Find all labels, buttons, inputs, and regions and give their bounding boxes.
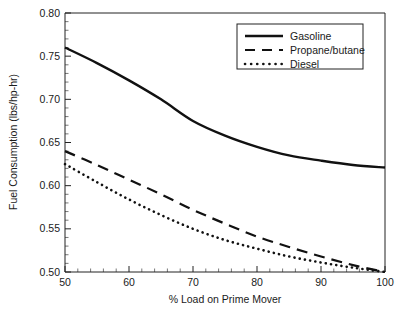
y-tick-label: 0.60 bbox=[40, 179, 61, 191]
series-line-propane-butane bbox=[65, 151, 385, 272]
chart-figure: 0.500.550.600.650.700.750.80506070809010… bbox=[0, 0, 409, 315]
legend-label-propane-butane: Propane/butane bbox=[290, 44, 365, 56]
y-axis-title: Fuel Consumption (lbs/hp-hr) bbox=[7, 74, 19, 210]
series-line-diesel bbox=[65, 164, 385, 272]
legend-label-diesel: Diesel bbox=[290, 58, 319, 70]
data-series-group bbox=[65, 48, 385, 272]
y-tick-label: 0.50 bbox=[40, 266, 61, 278]
x-tick-label: 60 bbox=[123, 276, 135, 288]
x-tick-label: 70 bbox=[187, 276, 199, 288]
y-tick-label: 0.70 bbox=[40, 93, 61, 105]
y-tick-label: 0.80 bbox=[40, 7, 61, 19]
x-tick-label: 100 bbox=[376, 276, 394, 288]
y-tick-label: 0.55 bbox=[40, 222, 61, 234]
x-tick-label: 80 bbox=[251, 276, 263, 288]
x-axis-title: % Load on Prime Mover bbox=[169, 293, 282, 305]
x-tick-label: 50 bbox=[59, 276, 71, 288]
fuel-consumption-line-chart: 0.500.550.600.650.700.750.80506070809010… bbox=[0, 0, 409, 315]
y-tick-label: 0.65 bbox=[40, 136, 61, 148]
x-tick-label: 90 bbox=[315, 276, 327, 288]
y-tick-label: 0.75 bbox=[40, 50, 61, 62]
legend-label-gasoline: Gasoline bbox=[290, 30, 332, 42]
